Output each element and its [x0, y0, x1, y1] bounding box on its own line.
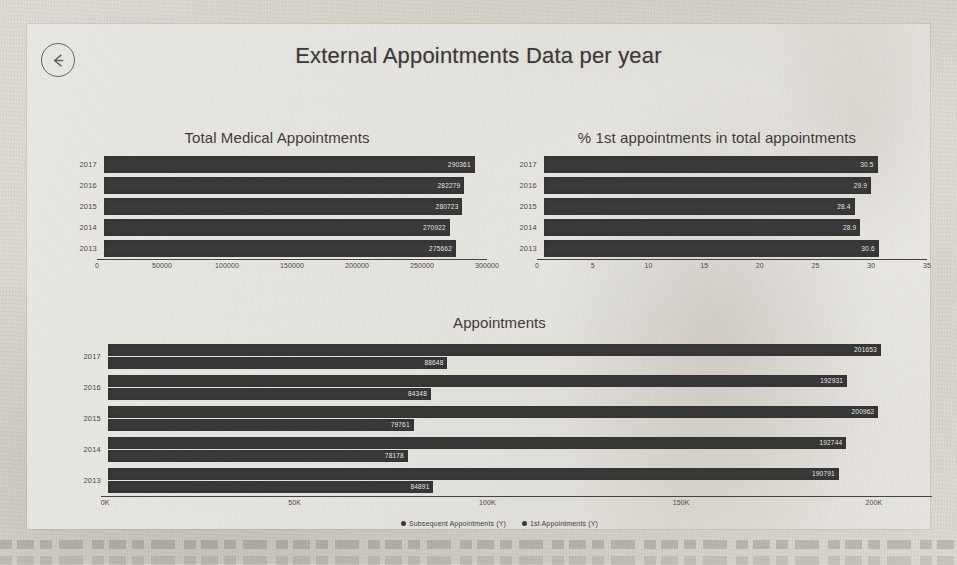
axis-tick-label-y: 2015: [67, 414, 108, 423]
bar-track: 270922: [104, 219, 487, 236]
slide-panel: External Appointments Data per year Tota…: [27, 24, 930, 529]
bar-track: 28.9: [544, 219, 927, 236]
axis-tick-label-y: 2017: [507, 160, 544, 169]
chart-total-medical-appointments: Total Medical Appointments 2017 290361 2…: [67, 129, 487, 274]
bar-first[interactable]: 78178: [108, 450, 408, 462]
bar[interactable]: 282279: [104, 177, 464, 194]
bar-row: 2013 30.6: [507, 238, 927, 259]
x-axis: 0 50000 100000 150000 200000 250000 3000…: [97, 259, 487, 274]
axis-tick-label-y: 2015: [507, 202, 544, 211]
bar-value-label: 28.4: [837, 203, 854, 210]
bar-first[interactable]: 84891: [108, 481, 433, 493]
bar-rows: 2017 290361 2016 282279: [67, 154, 487, 259]
axis-tick-label-x: 200K: [865, 499, 882, 506]
chart-title: Total Medical Appointments: [67, 129, 487, 146]
bar[interactable]: 270922: [104, 219, 450, 236]
bar-track: 290361: [104, 156, 487, 173]
axis-tick-label-x: 30: [867, 262, 875, 269]
axis-tick-label-y: 2013: [67, 244, 104, 253]
bar-group-row: 2017 201653 88648: [67, 341, 932, 371]
bar-subsequent[interactable]: 201653: [108, 344, 881, 356]
axis-tick-label-y: 2014: [67, 445, 108, 454]
axis-tick-label-x: 150K: [673, 499, 690, 506]
axis-tick-label-y: 2013: [507, 244, 544, 253]
bar-value-label: 79761: [391, 421, 414, 428]
axis-tick-label-y: 2016: [507, 181, 544, 190]
bar-track: 192931 84348: [108, 373, 932, 401]
bar-value-label: 84891: [410, 483, 433, 490]
bar-group-row: 2014 192744 78178: [67, 434, 932, 464]
x-axis: 0K 50K 100K 150K 200K: [101, 496, 932, 511]
chart-legend: Subsequent Appointments (Y) 1st Appointm…: [67, 520, 932, 527]
bar-track: 29.9: [544, 177, 927, 194]
legend-label: Subsequent Appointments (Y): [409, 520, 506, 527]
axis-tick-label-x: 300000: [475, 262, 499, 269]
bar-track: 30.5: [544, 156, 927, 173]
bar-value-label: 192744: [819, 439, 846, 446]
bar-first[interactable]: 84348: [108, 388, 431, 400]
bar-value-label: 201653: [854, 346, 881, 353]
axis-tick-label-x: 100000: [215, 262, 239, 269]
axis-tick-label-y: 2014: [507, 223, 544, 232]
bar-subsequent[interactable]: 200962: [108, 406, 878, 418]
axis-tick-label-x: 5: [591, 262, 595, 269]
axis-tick-label-x: 50K: [288, 499, 301, 506]
legend-item-subsequent[interactable]: Subsequent Appointments (Y): [401, 520, 506, 527]
bar-track: 30.6: [544, 240, 927, 257]
bar-subsequent[interactable]: 192744: [108, 437, 846, 449]
bar-track: 200962 79761: [108, 404, 932, 432]
axis-tick-label-x: 25: [812, 262, 820, 269]
x-axis: 0 5 10 15 20 25 30 35: [537, 259, 927, 274]
legend-label: 1st Appointments (Y): [530, 520, 598, 527]
bar[interactable]: 28.4: [544, 198, 855, 215]
bar-row: 2016 29.9: [507, 175, 927, 196]
legend-swatch-icon: [401, 521, 406, 526]
page-title: External Appointments Data per year: [27, 43, 930, 69]
bar-track: 201653 88648: [108, 342, 932, 370]
chart-pct-1st-appointments: % 1st appointments in total appointments…: [507, 129, 927, 274]
bar-value-label: 282279: [438, 182, 465, 189]
chart-appointments: Appointments 2017 201653 88648: [67, 314, 932, 527]
bar-value-label: 30.6: [861, 245, 878, 252]
axis-tick-label-x: 0K: [101, 499, 110, 506]
bar-track: 280723: [104, 198, 487, 215]
bar-group-row: 2016 192931 84348: [67, 372, 932, 402]
axis-tick-label-y: 2013: [67, 476, 108, 485]
bar-value-label: 200962: [852, 408, 879, 415]
axis-tick-label-y: 2017: [67, 160, 104, 169]
bar[interactable]: 275662: [104, 240, 456, 257]
bar[interactable]: 30.5: [544, 156, 878, 173]
bar-value-label: 78178: [385, 452, 408, 459]
axis-tick-label-y: 2017: [67, 352, 108, 361]
chart-title: % 1st appointments in total appointments: [507, 129, 927, 146]
bar-rows: 2017 201653 88648 2016: [67, 341, 932, 495]
bar-rows: 2017 30.5 2016 29.9: [507, 154, 927, 259]
bar-row: 2017 30.5: [507, 154, 927, 175]
bar-value-label: 280723: [436, 203, 463, 210]
bar-group-row: 2013 190791 84891: [67, 465, 932, 495]
legend-item-first[interactable]: 1st Appointments (Y): [522, 520, 598, 527]
bar-track: 28.4: [544, 198, 927, 215]
bar-track: 282279: [104, 177, 487, 194]
axis-tick-label-x: 250000: [410, 262, 434, 269]
bar-value-label: 28.9: [843, 224, 860, 231]
bar[interactable]: 29.9: [544, 177, 871, 194]
axis-tick-label-x: 50000: [152, 262, 172, 269]
bar-subsequent[interactable]: 190791: [108, 468, 839, 480]
bar-subsequent[interactable]: 192931: [108, 375, 847, 387]
printed-page-text-line: [0, 556, 957, 565]
bar-value-label: 290361: [448, 161, 475, 168]
bar-row: 2017 290361: [67, 154, 487, 175]
bar[interactable]: 280723: [104, 198, 462, 215]
bar-value-label: 190791: [812, 470, 839, 477]
bar-first[interactable]: 79761: [108, 419, 414, 431]
bar[interactable]: 30.6: [544, 240, 879, 257]
bar-value-label: 275662: [429, 245, 456, 252]
axis-tick-label-x: 0: [535, 262, 539, 269]
bar-value-label: 29.9: [854, 182, 871, 189]
axis-tick-label-y: 2016: [67, 383, 108, 392]
bar-track: 190791 84891: [108, 466, 932, 494]
bar[interactable]: 28.9: [544, 219, 860, 236]
bar[interactable]: 290361: [104, 156, 475, 173]
bar-first[interactable]: 88648: [108, 357, 447, 369]
